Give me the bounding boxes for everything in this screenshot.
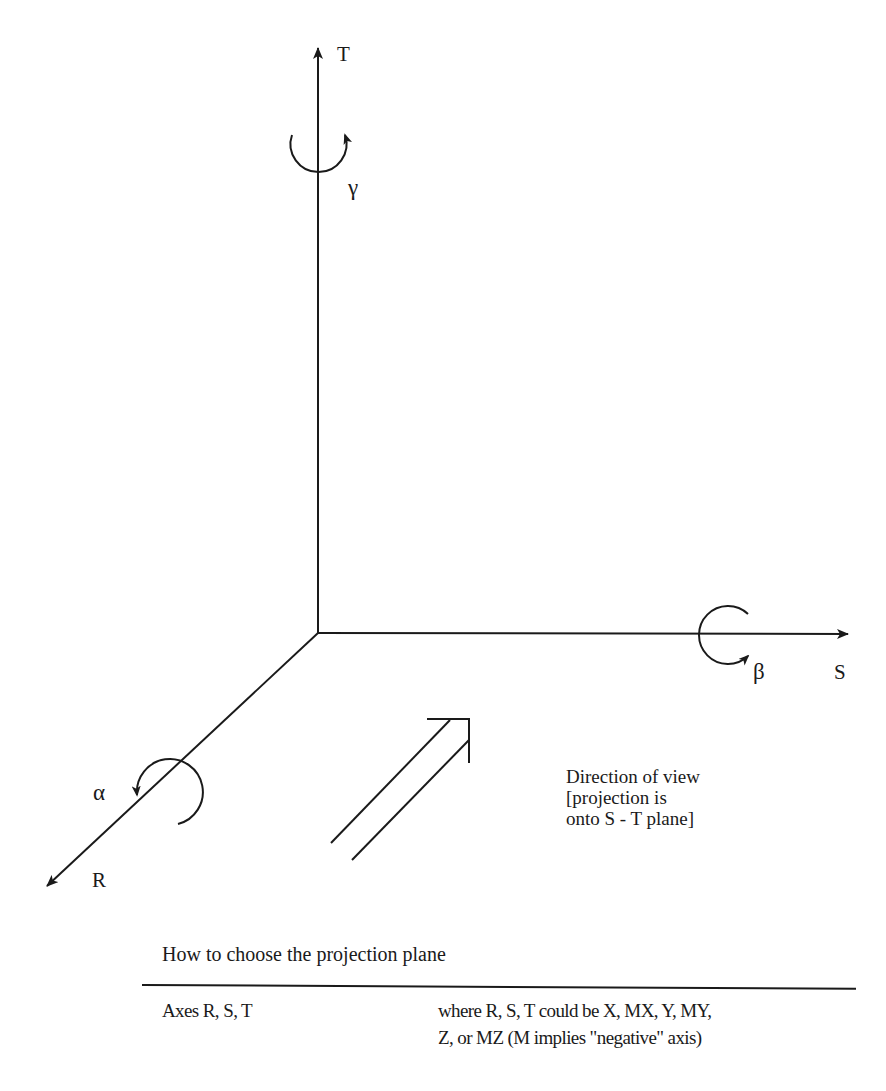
t-axis-label: T <box>337 44 350 65</box>
table-row-key: Axes R, S, T <box>162 997 252 1024</box>
s-axis <box>317 633 848 634</box>
table-row-value: where R, S, T could be X, MX, Y, MY, Z, … <box>438 997 711 1051</box>
view-note-line: onto S - T plane] <box>566 808 700 829</box>
table-row-value-line: Z, or MZ (M implies "negative" axis) <box>438 1024 711 1051</box>
beta-symbol: β <box>753 660 765 683</box>
s-axis-label: S <box>834 662 846 683</box>
beta-rotation-arrow-icon <box>699 606 748 664</box>
r-axis-label: R <box>92 870 106 891</box>
gamma-symbol: γ <box>348 176 358 199</box>
view-direction-note: Direction of view [projection is onto S … <box>566 766 700 829</box>
r-axis <box>47 633 318 886</box>
alpha-symbol: α <box>93 781 105 804</box>
view-direction-arrow-icon <box>331 719 469 860</box>
axes-diagram <box>0 0 886 1091</box>
table-row-value-line: where R, S, T could be X, MX, Y, MY, <box>438 997 711 1024</box>
view-note-line: Direction of view <box>566 766 700 787</box>
view-note-line: [projection is <box>566 787 700 808</box>
table-caption: How to choose the projection plane <box>162 943 446 966</box>
